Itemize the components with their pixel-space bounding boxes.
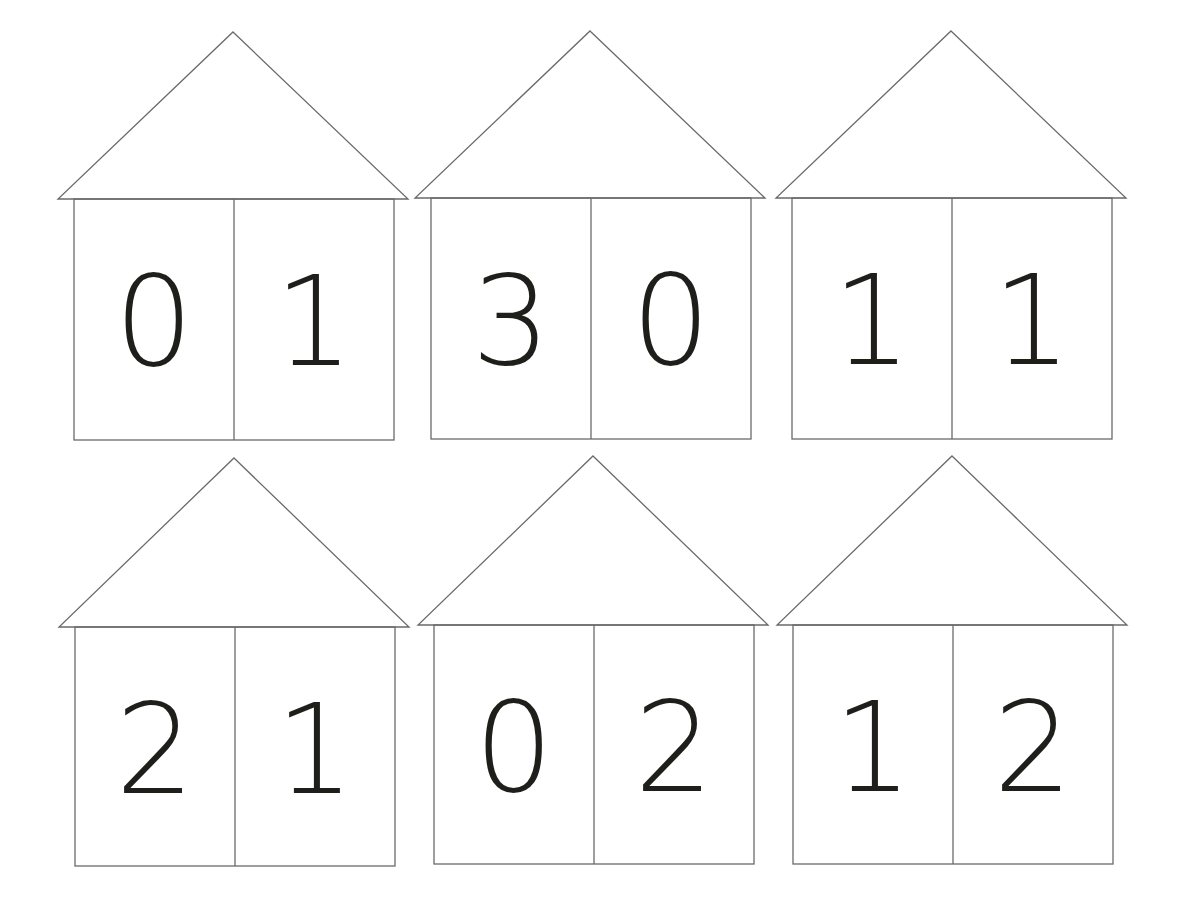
house-2-left-digit: 3 <box>431 259 591 383</box>
house-6-right-digit: 2 <box>953 686 1113 810</box>
house-5-right-digit: 2 <box>594 686 754 810</box>
house-4-left-digit: 2 <box>75 688 235 812</box>
house-3-left-digit: 1 <box>792 259 952 383</box>
house-6-left-digit: 1 <box>793 686 953 810</box>
house-1-left-digit: 0 <box>74 260 234 384</box>
house-4-right-digit: 1 <box>235 688 395 812</box>
house-6: 1 2 <box>776 456 1128 868</box>
house-3-right-digit: 1 <box>952 259 1112 383</box>
house-1-right-digit: 1 <box>234 260 394 384</box>
house-4: 2 1 <box>58 458 410 870</box>
house-5-left-digit: 0 <box>434 686 594 810</box>
house-1: 0 1 <box>57 32 409 444</box>
house-5: 0 2 <box>417 456 769 868</box>
house-2-right-digit: 0 <box>591 259 751 383</box>
house-2: 3 0 <box>414 31 766 443</box>
house-3: 1 1 <box>775 31 1127 443</box>
